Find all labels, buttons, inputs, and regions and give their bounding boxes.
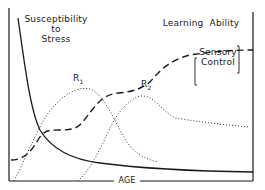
- sensory-label-line1: Sensory: [198, 47, 238, 57]
- susceptibility-label-line3: Stress: [22, 34, 90, 44]
- susceptibility-label-line1: Susceptibility: [22, 14, 90, 24]
- learning-ability-text: Learning Ability: [163, 18, 239, 28]
- x-axis-label: AGE: [116, 176, 138, 186]
- susceptibility-label: Susceptibility to Stress: [22, 14, 90, 44]
- r2-label: R2: [141, 79, 152, 93]
- r2-subscript: 2: [147, 84, 151, 91]
- r1-subscript: 1: [79, 78, 83, 85]
- r2-curve: [78, 96, 250, 181]
- sensory-label-line2: Control: [198, 57, 238, 67]
- sensory-control-label: Sensory Control: [198, 47, 238, 67]
- r1-label: R1: [73, 73, 84, 87]
- age-text: AGE: [118, 176, 135, 185]
- sensory-bracket-left: [195, 58, 197, 85]
- learning-ability-label: Learning Ability: [156, 18, 246, 28]
- susceptibility-label-line2: to: [22, 24, 90, 34]
